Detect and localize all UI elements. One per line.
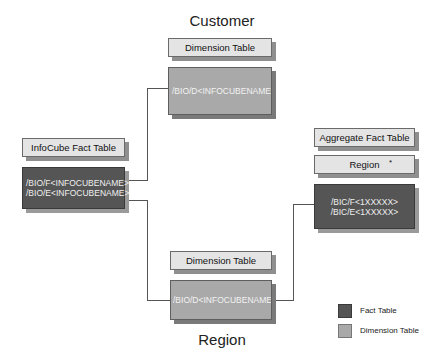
- connector-fact-to-region-h1: [125, 200, 148, 201]
- aggregate-fact-table: /BIC/F<1XXXXX> /BIC/E<1XXXXX>: [314, 184, 415, 229]
- legend-dimension-swatch: [338, 324, 352, 338]
- legend-fact-swatch: [338, 304, 352, 318]
- connector-fact-to-customer-v: [147, 88, 148, 181]
- customer-dimension-table-name: /BIO/D<INFOCUBENAME>1: [172, 86, 272, 96]
- customer-dimension-table: /BIO/D<INFOCUBENAME>1: [168, 67, 272, 115]
- connector-fact-to-region-v: [147, 200, 148, 301]
- legend-fact-label: Fact Table: [360, 306, 397, 315]
- infocube-fact-table-name-f: /BIO/F<INFOCUBENAME>: [26, 178, 124, 188]
- infocube-fact-table-name-e: /BIO/E<INFOCUBENAME>: [26, 188, 124, 198]
- customer-dimension-label-text: Dimension Table: [185, 42, 255, 53]
- connector-region-to-aggregate-h1: [272, 300, 294, 301]
- connector-fact-to-customer-h2: [147, 88, 169, 89]
- region-dimension-table: /BIO/D<INFOCUBENAME>2: [170, 280, 272, 320]
- region-title: Region: [170, 331, 274, 348]
- infocube-fact-table: /BIO/F<INFOCUBENAME> /BIO/E<INFOCUBENAME…: [22, 167, 125, 209]
- region-dimension-label-text: Dimension Table: [186, 255, 256, 266]
- aggregate-fact-table-name-e: /BIC/E<1XXXXX>: [331, 207, 399, 217]
- region-dimension-table-name: /BIO/D<INFOCUBENAME>2: [173, 295, 272, 305]
- infocube-fact-label: InfoCube Fact Table: [22, 138, 125, 157]
- aggregate-fact-table-name-f: /BIC/F<1XXXXX>: [331, 197, 398, 207]
- aggregate-fact-label: Aggregate Fact Table: [314, 128, 415, 147]
- infocube-fact-label-text: InfoCube Fact Table: [31, 142, 116, 153]
- aggregate-fact-label-text: Aggregate Fact Table: [319, 132, 409, 143]
- region-dimension-label: Dimension Table: [170, 251, 272, 270]
- aggregate-characteristic-text: Region: [349, 159, 379, 170]
- connector-region-to-aggregate-h2: [293, 204, 315, 205]
- connector-fact-to-region-h2: [147, 300, 171, 301]
- connector-region-to-aggregate-v: [293, 204, 294, 301]
- customer-title: Customer: [170, 12, 274, 29]
- customer-dimension-label: Dimension Table: [168, 38, 272, 57]
- legend-dimension-label: Dimension Table: [360, 326, 419, 335]
- aggregate-marker: *: [389, 158, 392, 167]
- aggregate-characteristic-label: Region *: [314, 155, 415, 174]
